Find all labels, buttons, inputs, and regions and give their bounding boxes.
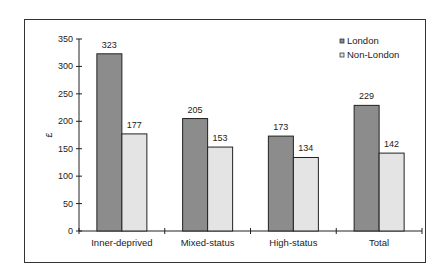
legend: London Non-London: [340, 35, 399, 60]
bar-value-label: 134: [298, 143, 313, 153]
bar-london: [183, 119, 208, 231]
y-tick-label: 250: [58, 89, 73, 99]
y-tick-label: 100: [58, 171, 73, 181]
y-tick-label: 200: [58, 116, 73, 126]
y-tick-label: 50: [63, 199, 73, 209]
bar-value-label: 173: [273, 122, 288, 132]
bar-value-label: 153: [213, 133, 228, 143]
bar-chart: 050100150200250300350 Inner-deprivedMixe…: [0, 0, 448, 279]
y-ticks: 050100150200250300350: [58, 34, 82, 236]
y-tick-label: 150: [58, 144, 73, 154]
bar-value-label: 205: [188, 105, 203, 115]
bars: 323177205153173134229142: [97, 40, 404, 231]
bar-value-label: 323: [102, 40, 117, 50]
y-tick-label: 0: [68, 226, 73, 236]
category-label: Total: [369, 237, 389, 248]
bar-london: [97, 54, 122, 231]
legend-swatch-non-london: [340, 53, 344, 57]
bar-london: [268, 136, 293, 231]
y-axis-label: £: [44, 132, 54, 137]
category-label: Mixed-status: [181, 237, 235, 248]
category-label: Inner-deprived: [91, 237, 152, 248]
bar-value-label: 177: [127, 120, 142, 130]
bar-non-london: [208, 147, 233, 231]
bar-value-label: 229: [359, 91, 374, 101]
bar-non-london: [379, 153, 404, 231]
y-tick-label: 350: [58, 34, 73, 44]
category-label: High-status: [269, 237, 317, 248]
legend-label-non-london: Non-London: [347, 49, 399, 60]
legend-swatch-london: [340, 39, 344, 43]
y-tick-label: 300: [58, 61, 73, 71]
bar-london: [354, 105, 379, 231]
bar-value-label: 142: [384, 139, 399, 149]
bar-non-london: [122, 134, 147, 231]
bar-non-london: [293, 157, 318, 231]
legend-label-london: London: [347, 35, 379, 46]
